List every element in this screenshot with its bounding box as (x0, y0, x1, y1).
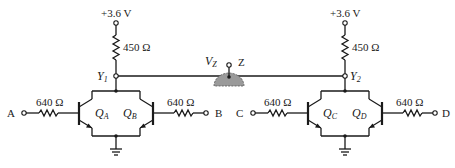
y1-node-label: Y1 (97, 69, 108, 84)
vz-label: VZ (205, 54, 217, 69)
input-a-resistor-label: 640 Ω (36, 96, 63, 108)
input-a-label: A (7, 107, 15, 119)
qa-label: QA (95, 106, 109, 121)
input-c-label: C (236, 107, 243, 119)
right-gate (251, 21, 437, 155)
qd-label: QD (352, 106, 367, 121)
wired-and-rtl-circuit: +3.6 V 450 Ω Y1 640 Ω A 640 Ω B QA QB VZ… (0, 0, 455, 168)
z-output-label: Z (238, 56, 245, 68)
input-d-label: D (442, 107, 450, 119)
input-c-resistor-label: 640 Ω (264, 96, 291, 108)
input-b-resistor-label: 640 Ω (167, 96, 194, 108)
input-d-resistor-label: 640 Ω (396, 96, 423, 108)
qc-label: QC (323, 106, 338, 121)
left-supply-label: +3.6 V (101, 7, 132, 19)
right-pullup-resistor-label: 450 Ω (352, 41, 379, 53)
qb-label: QB (123, 106, 137, 121)
right-supply-label: +3.6 V (330, 7, 361, 19)
y2-node-label: Y2 (350, 69, 361, 84)
input-b-label: B (215, 107, 222, 119)
left-pullup-resistor-label: 450 Ω (123, 41, 150, 53)
left-gate (22, 21, 208, 155)
